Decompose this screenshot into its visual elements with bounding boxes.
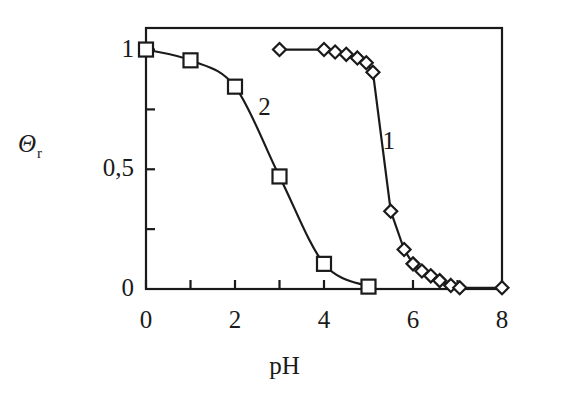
x-tick-label-0: 0 — [116, 307, 176, 332]
figure-panel: 1 0,5 0 0 2 4 6 8 Θr pH 2 1 — [0, 0, 569, 410]
axis-ticks — [146, 50, 502, 289]
series-label-2: 2 — [258, 93, 271, 121]
axes-frame — [146, 28, 502, 289]
y-tick-label-1: 1 — [64, 36, 134, 61]
y-axis-title-symbol: Θ — [18, 130, 36, 157]
x-tick-label-8: 8 — [472, 307, 532, 332]
series-label-1: 1 — [383, 127, 396, 155]
y-axis-title-subscript: r — [37, 145, 42, 161]
y-tick-label-0: 0 — [64, 275, 134, 300]
x-axis-title: pH — [0, 352, 569, 380]
x-tick-label-6: 6 — [383, 307, 443, 332]
x-tick-label-2: 2 — [205, 307, 265, 332]
series-1-curve — [273, 43, 509, 294]
y-axis-title: Θr — [18, 130, 78, 176]
chart-plot — [0, 0, 569, 410]
series-2-curve — [139, 43, 376, 294]
x-tick-label-4: 4 — [294, 307, 354, 332]
